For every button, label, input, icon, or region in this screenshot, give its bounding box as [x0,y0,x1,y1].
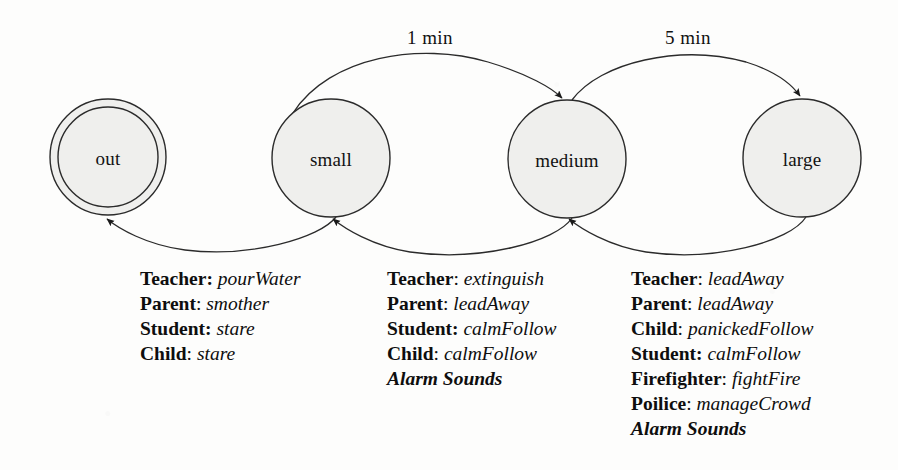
action-role: Teacher [387,268,453,289]
action-name: stare [197,343,235,364]
action-name: pourWater [218,268,301,289]
action-block-extinguish: Teacher: pourWaterParent: smotherStudent… [140,266,301,366]
transition-medium-to-large [572,55,800,100]
action-separator: : [443,293,453,314]
action-line: Poilice: manageCrowd [631,391,814,416]
action-separator: : [434,343,444,364]
action-role: Child [631,318,678,339]
state-label-large: large [783,150,822,169]
action-separator: : [187,343,197,364]
action-line: Parent: leadAway [387,291,557,316]
action-name: leadAway [697,293,773,314]
action-line: Child: panickedFollow [631,316,814,341]
transition-large-to-medium [569,217,806,255]
action-separator: : [697,268,707,289]
action-role: Parent [631,293,687,314]
action-separator: : [196,293,206,314]
transition-label-5-min: 5 min [665,27,711,49]
state-label-out: out [96,149,121,168]
transition-small-to-out [107,217,336,252]
action-line: Parent: leadAway [631,291,814,316]
action-name: calmFollow [707,343,800,364]
action-role: Student [140,318,205,339]
state-label-small: small [310,150,352,169]
action-line: Teacher: extinguish [387,266,557,291]
action-line: Student: calmFollow [387,316,557,341]
action-line: Child: stare [140,341,301,366]
action-separator: : [722,368,732,389]
action-role: Student [631,343,696,364]
action-role: Teacher [631,268,697,289]
action-name: extinguish [464,268,544,289]
transition-label-1-min: 1 min [407,27,453,49]
action-separator: : [205,318,216,339]
action-separator: : [686,393,696,414]
action-role: Teacher [140,268,206,289]
action-role: Parent [140,293,196,314]
action-line: Firefighter: fightFire [631,366,814,391]
action-name: leadAway [453,293,529,314]
action-role: Child [387,343,434,364]
action-block-large-to-medium: Teacher: leadAwayParent: leadAwayChild: … [631,266,814,441]
action-role: Poilice [631,393,686,414]
action-separator: : [206,268,217,289]
action-name: leadAway [708,268,784,289]
action-separator: : [678,318,688,339]
transition-medium-to-small [333,218,572,255]
action-line: Teacher: leadAway [631,266,814,291]
action-separator: : [452,318,463,339]
action-separator: : [687,293,697,314]
action-line: Student: calmFollow [631,341,814,366]
action-role: Student [387,318,452,339]
action-line: Child: calmFollow [387,341,557,366]
state-label-medium: medium [535,151,598,170]
action-name: manageCrowd [697,393,811,414]
action-name: panickedFollow [688,318,814,339]
action-name: calmFollow [463,318,556,339]
action-line: Teacher: pourWater [140,266,301,291]
action-block-medium-to-small: Teacher: extinguishParent: leadAwayStude… [387,266,557,391]
action-name: fightFire [732,368,801,389]
action-role: Child [140,343,187,364]
action-line: Parent: smother [140,291,301,316]
action-line: Student: stare [140,316,301,341]
action-separator: : [696,343,707,364]
action-line: Alarm Sounds [387,366,557,391]
action-role: Firefighter [631,368,722,389]
action-line: Alarm Sounds [631,416,814,441]
action-name: calmFollow [444,343,537,364]
alarm-sounds-label: Alarm Sounds [387,368,502,389]
action-role: Parent [387,293,443,314]
action-name: stare [216,318,254,339]
alarm-sounds-label: Alarm Sounds [631,418,746,439]
action-separator: : [453,268,463,289]
action-name: smother [206,293,269,314]
diagram-canvas: out small medium large 1 min 5 min Teach… [0,0,898,470]
